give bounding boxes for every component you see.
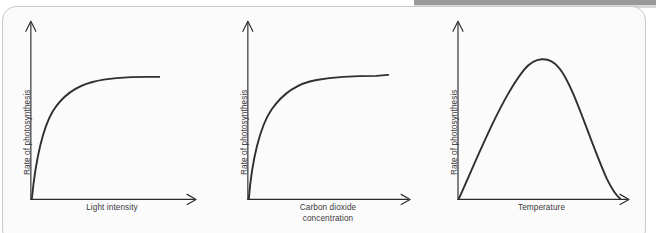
curve-optimum <box>459 59 620 198</box>
curve-saturating <box>32 77 159 199</box>
page-background: Rate of photosynthesis Light intensity R… <box>0 0 656 233</box>
chart-temperature: Rate of photosynthesis Temperature <box>431 7 645 233</box>
chart-temperature-svg <box>431 7 645 233</box>
curve-saturating <box>249 75 388 199</box>
chart-carbon-dioxide-svg <box>217 7 431 233</box>
figure-row: Rate of photosynthesis Light intensity R… <box>3 7 645 233</box>
figure-card: Rate of photosynthesis Light intensity R… <box>2 6 646 233</box>
chart-light-intensity-svg <box>3 7 217 233</box>
chart-light-intensity: Rate of photosynthesis Light intensity <box>3 7 217 233</box>
chart-carbon-dioxide-concentration: Rate of photosynthesis Carbon dioxide co… <box>217 7 431 233</box>
